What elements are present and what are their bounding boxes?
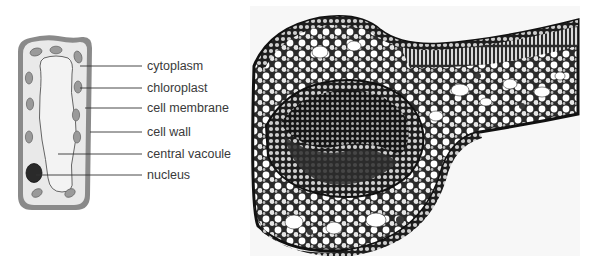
leaf-cross-section-micrograph	[250, 6, 580, 256]
label-nucleus: nucleus	[147, 168, 190, 182]
nucleus-shape	[26, 164, 42, 183]
plant-cell-diagram: cytoplasm chloroplast cell membrane cell…	[0, 0, 250, 263]
chloroplast	[26, 98, 33, 110]
label-chloroplast: chloroplast	[147, 81, 208, 95]
label-cell-membrane: cell membrane	[147, 101, 229, 115]
chloroplast	[74, 81, 82, 93]
chloroplast	[50, 46, 62, 54]
label-cell-wall: cell wall	[147, 125, 191, 139]
label-cytoplasm: cytoplasm	[147, 59, 203, 73]
label-central-vacuole: central vacoule	[147, 147, 231, 161]
chloroplast	[25, 131, 32, 143]
chloroplast	[25, 72, 32, 84]
chloroplast	[73, 131, 80, 143]
chloroplast	[72, 109, 79, 121]
